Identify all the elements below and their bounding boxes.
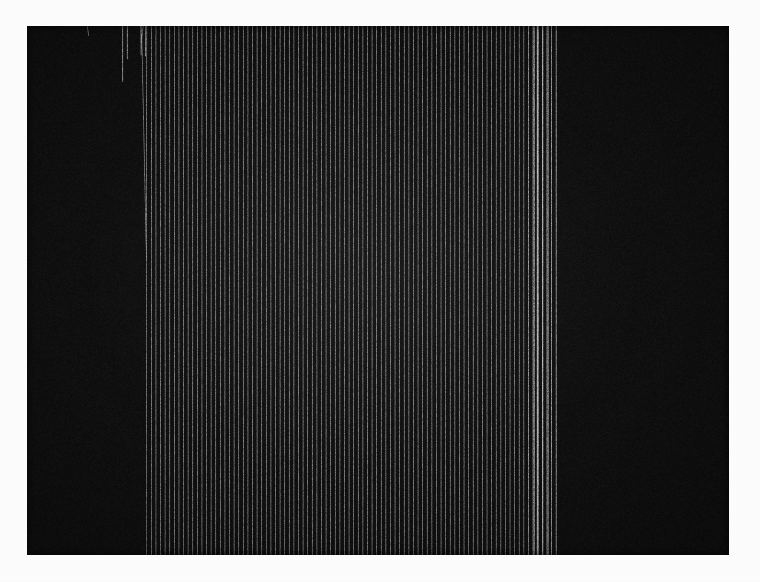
surface-plot-canvas bbox=[27, 26, 729, 555]
page-root: A dense white wireframe mesh surface ren… bbox=[0, 0, 760, 582]
plot-alt-text: A dense white wireframe mesh surface ren… bbox=[0, 0, 1, 1]
surface-plot-frame bbox=[27, 26, 729, 555]
plot-title: 3D wireframe mesh surface bbox=[0, 0, 1, 1]
